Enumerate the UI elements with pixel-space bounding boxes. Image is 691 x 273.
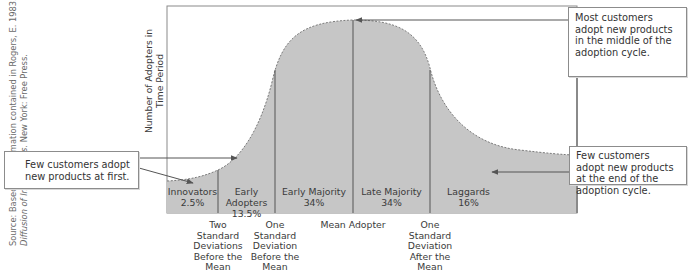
segment-early-adopters: Early Adopters 13.5% <box>218 186 275 219</box>
label-mean-adopter: Mean Adopter <box>313 220 393 231</box>
segment-late-majority: Late Majority 34% <box>353 186 430 208</box>
callout-late-adoption: Few customers adopt new products at the … <box>569 146 687 185</box>
callout-early-adoption: Few customers adopt new products at firs… <box>4 151 139 189</box>
segment-name: Innovators <box>167 186 218 197</box>
segment-percent: 34% <box>275 197 353 208</box>
segment-name: Early Adopters <box>218 186 275 208</box>
segment-percent: 34% <box>353 197 430 208</box>
segment-name: Early Majority <box>275 186 353 197</box>
segment-percent: 13.5% <box>218 208 275 219</box>
segment-percent: 16% <box>430 197 507 208</box>
label-one-sd-before: One Standard Deviation Before the Mean <box>247 220 303 273</box>
callout-mid-adoption: Most customers adopt new products in the… <box>568 7 687 77</box>
segment-innovators: Innovators 2.5% <box>167 186 218 208</box>
segment-early-majority: Early Majority 34% <box>275 186 353 208</box>
label-one-sd-after: One Standard Deviation After the Mean <box>398 220 462 273</box>
segment-percent: 2.5% <box>167 197 218 208</box>
segment-name: Late Majority <box>353 186 430 197</box>
label-two-sd-before: Two Standard Deviations Before the Mean <box>190 220 246 273</box>
segment-laggards: Laggards 16% <box>430 186 507 208</box>
segment-name: Laggards <box>430 186 507 197</box>
